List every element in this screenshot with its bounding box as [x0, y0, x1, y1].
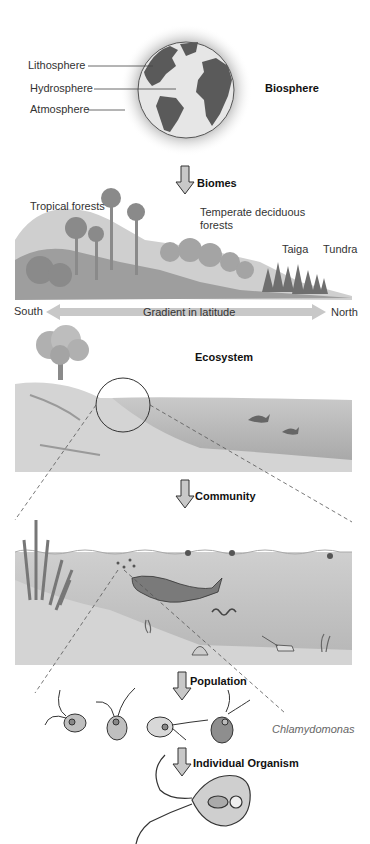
earth-globe	[120, 24, 252, 156]
level-community: Community	[195, 490, 256, 502]
tree-icon	[36, 325, 89, 380]
ecosystem-scene	[15, 325, 352, 472]
ecology-diagram	[0, 0, 370, 844]
arrow-down-individual	[173, 748, 191, 776]
level-individual-organism: Individual Organism	[193, 757, 299, 769]
label-chlamydomonas: Chlamydomonas	[272, 723, 355, 735]
label-taiga: Taiga	[282, 243, 308, 255]
chlamydomonas-cell	[96, 688, 135, 740]
level-biosphere: Biosphere	[265, 82, 319, 94]
chlamydomonas-cell	[45, 690, 86, 732]
label-lithosphere: Lithosphere	[28, 59, 86, 71]
label-gradient: Gradient in latitude	[143, 306, 235, 318]
label-tundra: Tundra	[323, 243, 357, 255]
label-tropical-forests: Tropical forests	[30, 200, 105, 212]
chlamydomonas-cell	[147, 717, 208, 740]
level-ecosystem: Ecosystem	[195, 351, 253, 363]
label-atmosphere: Atmosphere	[30, 103, 89, 115]
level-population: Population	[190, 675, 247, 687]
community-scene	[15, 520, 352, 665]
arrow-down-community	[176, 480, 194, 508]
label-hydrosphere: Hydrosphere	[30, 82, 93, 94]
arrow-down-biomes	[176, 166, 194, 194]
chlamydomonas-cell	[211, 690, 250, 743]
label-south: South	[14, 305, 43, 317]
level-biomes: Biomes	[197, 177, 237, 189]
label-temperate-forests: Temperate deciduous forests	[200, 206, 310, 232]
arrow-down-population	[173, 672, 191, 700]
population-cells	[45, 688, 250, 743]
label-north: North	[331, 306, 358, 318]
